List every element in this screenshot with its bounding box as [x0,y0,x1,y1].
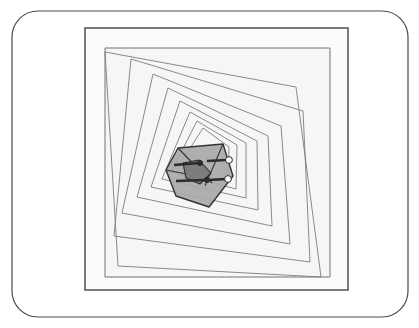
diagram-stage: Nested rotating quadrilateral spiral A s… [0,0,419,328]
pin-marker-2-rod [207,160,227,161]
pin-marker-2-head [226,157,233,164]
pin-marker-4-rod [209,179,226,180]
pin-marker-4-head [225,176,232,183]
diagram-canvas [0,0,419,328]
pin-marker-1-head [197,160,202,165]
pin-marker-3-rod [176,180,206,181]
pin-marker-3-head [204,177,209,182]
